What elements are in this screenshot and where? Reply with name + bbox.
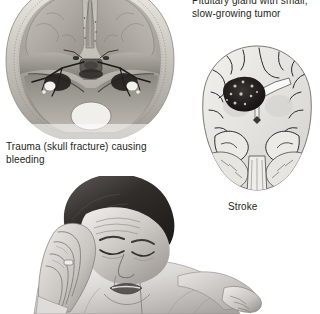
caption-trauma: Trauma (skull fracture) causing bleeding — [6, 141, 186, 166]
headache-patient-photo — [28, 176, 276, 314]
optic-canal-right — [103, 56, 109, 60]
skull-bottom-fade — [2, 124, 178, 139]
finger-ring — [64, 260, 73, 265]
optic-canal-left — [73, 56, 79, 60]
stroke-lesion — [223, 77, 265, 112]
caption-pituitary-tumor: Pituitary gland with small, slow-growing… — [192, 0, 320, 20]
basal-ganglia-right — [265, 95, 293, 117]
skull-base-illustration — [2, 0, 178, 139]
headache-patient-svg — [28, 176, 276, 314]
brain-coronal-section-illustration — [197, 44, 317, 198]
brain-coronal-svg — [197, 44, 317, 198]
caption-stroke: Stroke — [228, 201, 298, 214]
pituitary-gland — [84, 62, 98, 70]
skull-base-svg — [2, 0, 178, 139]
